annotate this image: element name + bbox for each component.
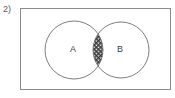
worksheet-figure: 2) A B	[0, 0, 175, 98]
question-number-label: 2)	[3, 4, 11, 15]
set-label-a: A	[70, 45, 76, 54]
venn-diagram	[20, 8, 171, 90]
set-label-b: B	[117, 45, 123, 54]
